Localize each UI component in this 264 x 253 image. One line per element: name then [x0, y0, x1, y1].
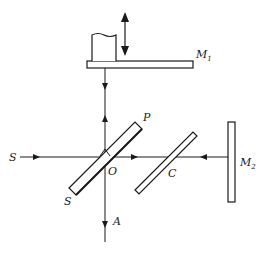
mirror-m1: [87, 34, 193, 69]
label-a: A: [112, 215, 121, 228]
label-s-source: S: [9, 151, 17, 164]
compensator-plate: [135, 132, 197, 194]
label-o: O: [108, 165, 117, 178]
label-p: P: [142, 111, 151, 124]
interferometer-diagram: M1 M2 P S S O C A: [0, 0, 264, 253]
mirror-mount: [92, 34, 116, 62]
label-c: C: [168, 167, 177, 180]
mirror-m2: [228, 122, 235, 202]
label-m2: M2: [239, 156, 256, 171]
label-m1: M1: [195, 48, 212, 63]
label-s-plate: S: [64, 195, 72, 208]
horizontal-beam: [20, 154, 228, 160]
motion-double-arrow-icon: [121, 12, 129, 56]
